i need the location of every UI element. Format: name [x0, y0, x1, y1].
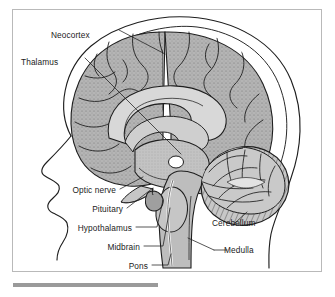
label-pituitary: Pituitary	[92, 205, 123, 213]
leader-medulla-2	[188, 238, 214, 250]
label-hypothalamus: Hypothalamus	[78, 224, 132, 232]
massa-intermedia	[169, 156, 184, 168]
label-neocortex: Neocortex	[51, 31, 90, 39]
figure-frame: Neocortex Thalamus Optic nerve Pituitary…	[12, 9, 322, 272]
label-midbrain: Midbrain	[107, 243, 140, 251]
label-medulla: Medulla	[224, 246, 254, 254]
label-optic-nerve: Optic nerve	[72, 186, 116, 194]
label-pons: Pons	[129, 262, 148, 270]
label-cerebellum: Cerebellum	[212, 219, 255, 227]
caption-rule	[13, 283, 158, 287]
brain-diagram-illustration	[13, 10, 321, 271]
label-thalamus: Thalamus	[21, 58, 58, 66]
